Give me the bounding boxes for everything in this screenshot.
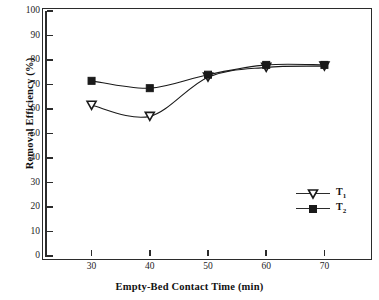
x-tick-label: 60 — [246, 262, 286, 272]
data-point-t2 — [263, 61, 270, 68]
plot-area — [45, 11, 371, 256]
y-tick-label: 20 — [0, 202, 40, 212]
y-tick-label: 0 — [0, 251, 40, 261]
legend-item-t1: T1 — [296, 186, 366, 201]
data-point-t2 — [321, 61, 328, 68]
x-axis-label: Empty-Bed Contact Time (min) — [0, 281, 379, 292]
data-point-t2 — [205, 71, 212, 78]
data-series-layer — [45, 11, 371, 256]
x-tick-label: 70 — [304, 262, 344, 272]
data-point-t2 — [88, 77, 95, 84]
x-tick-label: 30 — [72, 262, 112, 272]
y-axis-label: Removal Efficiency (%) — [24, 29, 35, 199]
legend-item-t2: T2 — [296, 201, 366, 216]
data-point-t1 — [87, 101, 96, 109]
data-point-t2 — [146, 85, 153, 92]
legend-marker-t1-icon — [296, 188, 330, 200]
legend-label-t2: T2 — [336, 202, 346, 215]
y-tick-label: 100 — [0, 6, 40, 16]
chart-legend: T1T2 — [296, 186, 366, 216]
y-tick-label: 10 — [0, 227, 40, 237]
chart-figure: 0102030405060708090100 3040506070 Empty-… — [0, 0, 379, 300]
legend-label-t1: T1 — [336, 187, 346, 200]
legend-marker-t2-icon — [296, 203, 330, 215]
x-tick-label: 40 — [130, 262, 170, 272]
x-tick-label: 50 — [188, 262, 228, 272]
data-point-t1 — [145, 112, 154, 120]
